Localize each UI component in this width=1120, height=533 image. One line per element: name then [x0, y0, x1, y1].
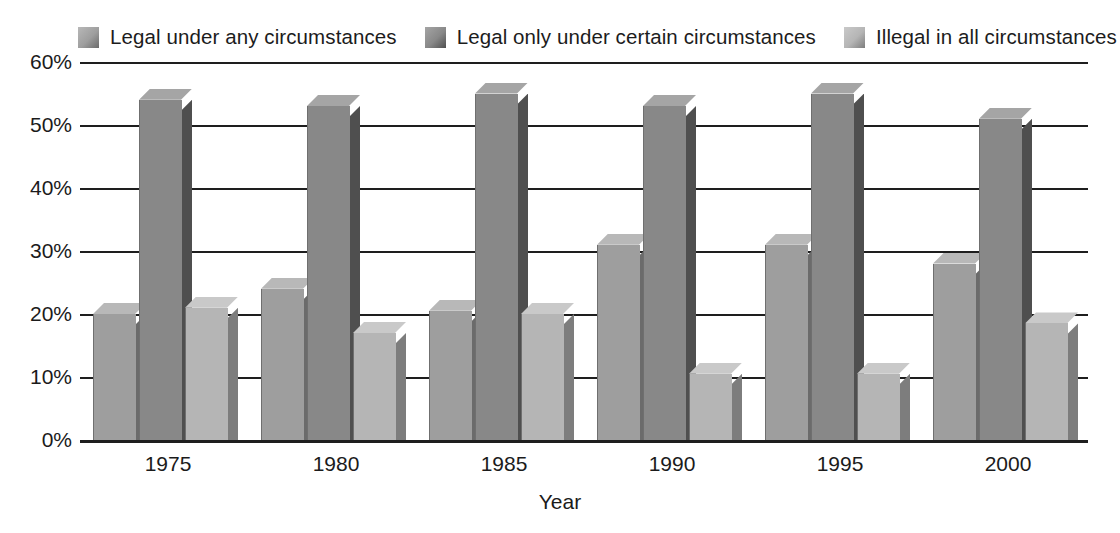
y-tick-60%: 60% [8, 50, 72, 74]
legend-label-series-1: Legal under any circumstances [110, 25, 397, 49]
chart-legend: Legal under any circumstances Legal only… [78, 22, 1120, 52]
bar-side [395, 333, 406, 440]
x-axis-title: Year [0, 490, 1120, 514]
bar-face [93, 314, 136, 440]
bar-face [811, 94, 854, 441]
bar-1975-series-1 [93, 314, 135, 440]
bar-1975-series-3 [185, 308, 227, 440]
bar-2000-series-2 [979, 119, 1021, 440]
bar-side [899, 374, 910, 440]
bar-1985-series-3 [521, 314, 563, 440]
bar-face [689, 374, 732, 440]
bar-top [1025, 312, 1078, 323]
legend-item-illegal-all: Illegal in all circumstances [844, 25, 1117, 49]
legend-swatch-series-2 [425, 27, 446, 48]
bar-side [227, 308, 238, 440]
bar-2000-series-3 [1025, 323, 1067, 440]
bar-group-1985 [416, 62, 584, 440]
bar-1990-series-1 [597, 245, 639, 440]
bar-face [429, 311, 472, 440]
legend-swatch-series-3 [844, 27, 865, 48]
bar-face [857, 374, 900, 440]
bar-face [1025, 323, 1068, 440]
bar-1995-series-1 [765, 245, 807, 440]
y-tick-40%: 40% [8, 176, 72, 200]
x-tick-1985: 1985 [481, 452, 528, 476]
bar-face [597, 245, 640, 440]
legend-label-series-3: Illegal in all circumstances [876, 25, 1117, 49]
bar-face [979, 119, 1022, 440]
bar-side [1067, 323, 1078, 440]
bar-top [353, 322, 406, 333]
bar-top [811, 83, 864, 94]
bar-1975-series-2 [139, 100, 181, 440]
bar-top [979, 108, 1032, 119]
bar-top [307, 95, 360, 106]
bar-1995-series-2 [811, 94, 853, 441]
bar-side [731, 374, 742, 440]
bar-face [261, 289, 304, 440]
bar-face [139, 100, 182, 440]
bar-top [857, 363, 910, 374]
bar-2000-series-1 [933, 264, 975, 440]
bar-face [933, 264, 976, 440]
legend-item-legal-certain: Legal only under certain circumstances [425, 25, 816, 49]
bar-face [765, 245, 808, 440]
bar-group-1990 [584, 62, 752, 440]
x-tick-1980: 1980 [313, 452, 360, 476]
bar-1980-series-1 [261, 289, 303, 440]
legend-swatch-series-1 [78, 27, 99, 48]
bar-face [475, 94, 518, 441]
bar-top [185, 297, 238, 308]
plot-area [80, 62, 1088, 440]
y-tick-0%: 0% [8, 428, 72, 452]
bar-top [521, 303, 574, 314]
bar-1990-series-2 [643, 106, 685, 440]
bar-1995-series-3 [857, 374, 899, 440]
legend-item-legal-any: Legal under any circumstances [78, 25, 397, 49]
bar-top [475, 83, 528, 94]
bar-chart: Legal under any circumstances Legal only… [0, 0, 1120, 533]
bar-1985-series-1 [429, 311, 471, 440]
bar-side [563, 314, 574, 440]
bar-face [353, 333, 396, 440]
bar-face [185, 308, 228, 440]
bar-face [521, 314, 564, 440]
x-tick-2000: 2000 [985, 452, 1032, 476]
bar-face [307, 106, 350, 440]
bar-group-1995 [752, 62, 920, 440]
x-tick-1975: 1975 [145, 452, 192, 476]
bar-face [643, 106, 686, 440]
bar-group-1980 [248, 62, 416, 440]
x-tick-1995: 1995 [817, 452, 864, 476]
y-tick-10%: 10% [8, 365, 72, 389]
bar-1980-series-2 [307, 106, 349, 440]
bar-top [689, 363, 742, 374]
bar-group-1975 [80, 62, 248, 440]
bar-top [643, 95, 696, 106]
legend-label-series-2: Legal only under certain circumstances [457, 25, 816, 49]
bar-1980-series-3 [353, 333, 395, 440]
bar-groups [80, 62, 1088, 440]
bar-1990-series-3 [689, 374, 731, 440]
bar-top [139, 89, 192, 100]
bar-group-2000 [920, 62, 1088, 440]
bar-1985-series-2 [475, 94, 517, 441]
gridline-0 [80, 440, 1088, 443]
y-tick-20%: 20% [8, 302, 72, 326]
y-tick-50%: 50% [8, 113, 72, 137]
y-tick-30%: 30% [8, 239, 72, 263]
x-tick-1990: 1990 [649, 452, 696, 476]
